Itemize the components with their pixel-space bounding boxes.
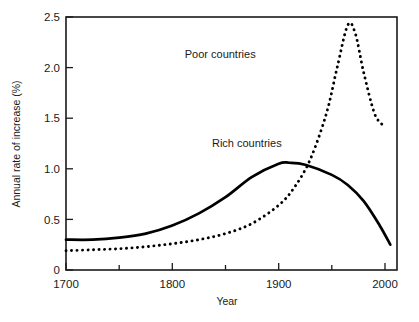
y-axis-ticks [66,17,73,270]
y-tick-label-2-0: 2.0 [44,62,60,74]
y-tick-label-1-5: 1.5 [44,112,60,124]
y-axis-title: Annual rate of increase (%) [10,80,22,207]
x-axis-ticks [66,263,385,270]
x-tick-label-1800: 1800 [160,278,186,290]
y-tick-label-0-5: 0.5 [44,214,60,226]
x-tick-label-2000: 2000 [372,278,398,290]
y-tick-label-1-0: 1.0 [44,163,60,175]
x-axis-title: Year [216,295,238,307]
x-tick-label-1700: 1700 [53,278,79,290]
y-tick-label-0: 0 [54,264,60,276]
series-label-rich-countries: Rich countries [212,137,282,149]
x-tick-label-1900: 1900 [266,278,292,290]
population-growth-rate-chart: 0 0.5 1.0 1.5 2.0 2.5 1700 1800 1900 200… [0,0,419,322]
series-label-poor-countries: Poor countries [185,48,256,60]
chart-figure: 0 0.5 1.0 1.5 2.0 2.5 1700 1800 1900 200… [0,0,419,322]
y-tick-label-2-5: 2.5 [44,11,60,23]
